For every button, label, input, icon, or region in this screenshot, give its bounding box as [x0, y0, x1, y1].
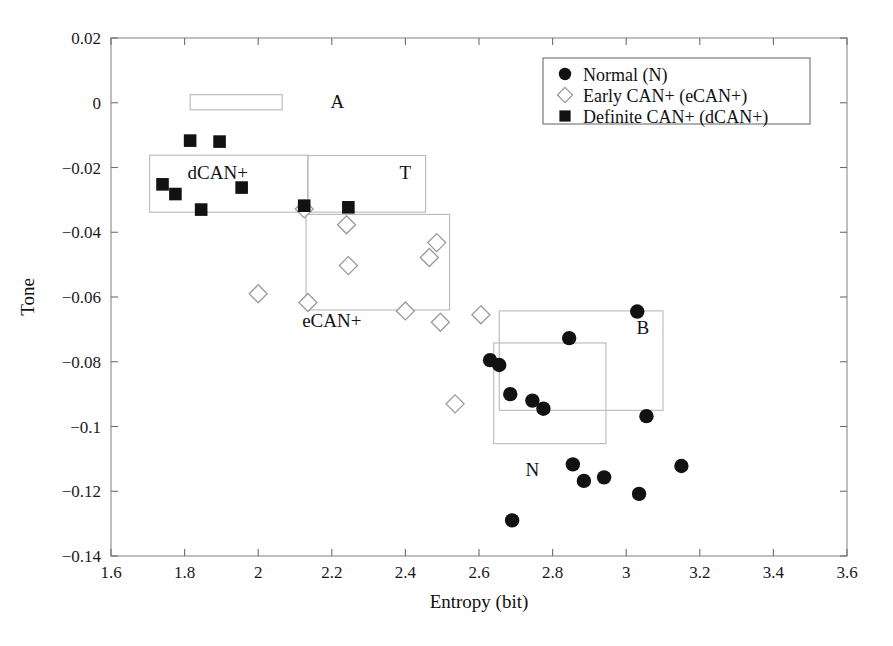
y-tick-label: −0.14: [62, 547, 102, 566]
legend-entry-label: Early CAN+ (eCAN+): [583, 86, 747, 107]
y-tick-label: 0: [93, 94, 102, 113]
data-point-normal-n: [632, 487, 646, 501]
region-label-dcanplus: dCAN+: [188, 162, 248, 183]
data-point-definite-can-dcan: [169, 188, 182, 201]
x-tick-label: 2: [254, 563, 263, 582]
data-point-early-can-ecan: [446, 395, 464, 413]
y-tick-label: −0.06: [62, 288, 101, 307]
region-label-n: N: [525, 459, 539, 480]
region-box-a: [190, 95, 282, 110]
data-point-normal-n: [503, 387, 517, 401]
legend-entry-label: Normal (N): [583, 65, 667, 86]
data-point-normal-n: [505, 513, 519, 527]
data-point-definite-can-dcan: [156, 178, 169, 191]
data-point-early-can-ecan: [338, 216, 356, 234]
y-tick-label: −0.12: [62, 482, 101, 501]
x-tick-label: 3.4: [763, 563, 785, 582]
data-point-early-can-ecan: [472, 306, 490, 324]
region-label-b: B: [636, 317, 649, 338]
region-label-t: T: [400, 162, 412, 183]
x-tick-label: 2.2: [321, 563, 342, 582]
x-tick-label: 3.2: [689, 563, 710, 582]
x-axis-title: Entropy (bit): [430, 591, 529, 613]
region-label-ecanplus: eCAN+: [302, 310, 361, 331]
x-axis-tick-labels: 1.61.822.22.42.62.833.23.43.6: [100, 563, 857, 582]
data-point-definite-can-dcan: [184, 134, 197, 147]
legend-marker-normal: [559, 68, 571, 80]
legend-entry-label: Definite CAN+ (dCAN+): [583, 107, 768, 128]
y-tick-label: 0.02: [71, 29, 101, 48]
data-point-normal-n: [674, 459, 688, 473]
data-points: [156, 134, 688, 527]
y-tick-label: −0.04: [62, 223, 102, 242]
y-tick-label: −0.08: [62, 353, 101, 372]
y-axis-tick-labels: 0.020−0.02−0.04−0.06−0.08−0.1−0.12−0.14: [62, 29, 102, 566]
x-tick-label: 1.6: [100, 563, 121, 582]
data-point-early-can-ecan: [339, 257, 357, 275]
data-point-definite-can-dcan: [213, 135, 226, 148]
x-tick-label: 2.4: [395, 563, 417, 582]
data-point-normal-n: [639, 409, 653, 423]
data-point-definite-can-dcan: [195, 203, 208, 216]
plot-canvas: 1.61.822.22.42.62.833.23.43.6 0.020−0.02…: [0, 0, 893, 646]
legend-marker-dcan: [559, 110, 570, 121]
data-point-definite-can-dcan: [342, 201, 355, 214]
data-point-definite-can-dcan: [298, 199, 311, 212]
y-axis-title: Tone: [17, 278, 38, 316]
data-point-normal-n: [562, 331, 576, 345]
data-point-normal-n: [492, 358, 506, 372]
x-tick-label: 3: [622, 563, 631, 582]
data-point-normal-n: [536, 401, 550, 415]
cluster-region-boxes: [150, 95, 663, 444]
legend: Normal (N)Early CAN+ (eCAN+)Definite CAN…: [543, 58, 810, 128]
x-tick-label: 3.6: [836, 563, 857, 582]
y-tick-label: −0.02: [62, 159, 101, 178]
data-point-normal-n: [597, 470, 611, 484]
x-tick-label: 2.8: [542, 563, 563, 582]
scatter-plot-figure: 1.61.822.22.42.62.833.23.43.6 0.020−0.02…: [0, 0, 893, 646]
data-point-normal-n: [566, 457, 580, 471]
x-tick-label: 2.6: [468, 563, 489, 582]
data-point-early-can-ecan: [431, 313, 449, 331]
data-point-normal-n: [577, 474, 591, 488]
region-label-a: A: [330, 91, 344, 112]
data-point-early-can-ecan: [249, 285, 267, 303]
y-tick-label: −0.1: [70, 418, 101, 437]
data-point-early-can-ecan: [396, 302, 414, 320]
x-tick-label: 1.8: [174, 563, 195, 582]
